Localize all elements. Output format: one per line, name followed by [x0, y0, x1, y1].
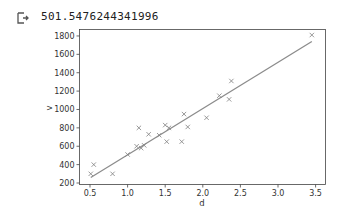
y-tick-label: 600 — [59, 142, 74, 151]
data-point-x-marker — [180, 139, 184, 143]
data-point-x-marker — [182, 112, 186, 116]
data-point-x-marker — [137, 126, 141, 130]
y-tick-label: 1600 — [54, 50, 74, 59]
data-point-x-marker — [89, 172, 93, 176]
data-point-x-marker — [134, 144, 138, 148]
data-point-x-marker — [204, 116, 208, 120]
data-point-x-marker — [217, 93, 221, 97]
data-point-x-marker — [229, 79, 233, 83]
scatter-chart: 0.51.01.52.02.53.03.5 200400600800100012… — [0, 0, 346, 215]
y-tick-label: 400 — [59, 161, 74, 170]
data-point-x-marker — [157, 133, 161, 137]
x-axis-label: d — [199, 198, 204, 208]
x-tick-label: 3.0 — [272, 189, 285, 198]
data-point-x-marker — [227, 97, 231, 101]
y-axis: 20040060080010001200140016001800 — [54, 32, 79, 188]
y-tick-label: 800 — [59, 124, 74, 133]
fit-line — [91, 41, 312, 177]
data-point-x-marker — [92, 162, 96, 166]
x-tick-label: 1.0 — [121, 189, 134, 198]
data-points — [89, 33, 314, 176]
x-tick-label: 2.0 — [196, 189, 209, 198]
y-tick-label: 1400 — [54, 69, 74, 78]
x-tick-label: 2.5 — [234, 189, 247, 198]
y-axis-label: v — [44, 105, 54, 110]
x-tick-label: 3.5 — [309, 189, 322, 198]
data-point-x-marker — [310, 33, 314, 37]
y-tick-label: 1800 — [54, 32, 74, 41]
x-tick-label: 0.5 — [84, 189, 97, 198]
y-tick-label: 1000 — [54, 105, 74, 114]
data-point-x-marker — [165, 139, 169, 143]
regression-line — [91, 41, 312, 177]
data-point-x-marker — [163, 123, 167, 127]
data-point-x-marker — [186, 125, 190, 129]
data-point-x-marker — [146, 132, 150, 136]
x-tick-label: 1.5 — [159, 189, 172, 198]
y-tick-label: 1200 — [54, 87, 74, 96]
y-tick-label: 200 — [59, 179, 74, 188]
data-point-x-marker — [110, 172, 114, 176]
x-axis: 0.51.01.52.02.53.03.5 — [84, 185, 322, 198]
